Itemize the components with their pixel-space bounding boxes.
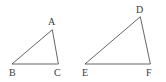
triangle-def: D E F (82, 4, 152, 78)
vertex-label-a: A (48, 16, 56, 27)
vertex-label-d: D (136, 4, 143, 15)
figure-canvas: A B C D E F (0, 0, 166, 82)
vertex-label-e: E (82, 67, 88, 78)
triangle-def-outline (85, 17, 150, 64)
vertex-label-f: F (146, 67, 152, 78)
vertex-label-c: C (54, 67, 61, 78)
triangle-abc: A B C (9, 16, 61, 78)
vertex-label-b: B (9, 67, 16, 78)
geometry-figure: A B C D E F (0, 0, 166, 82)
triangle-abc-outline (12, 30, 58, 64)
